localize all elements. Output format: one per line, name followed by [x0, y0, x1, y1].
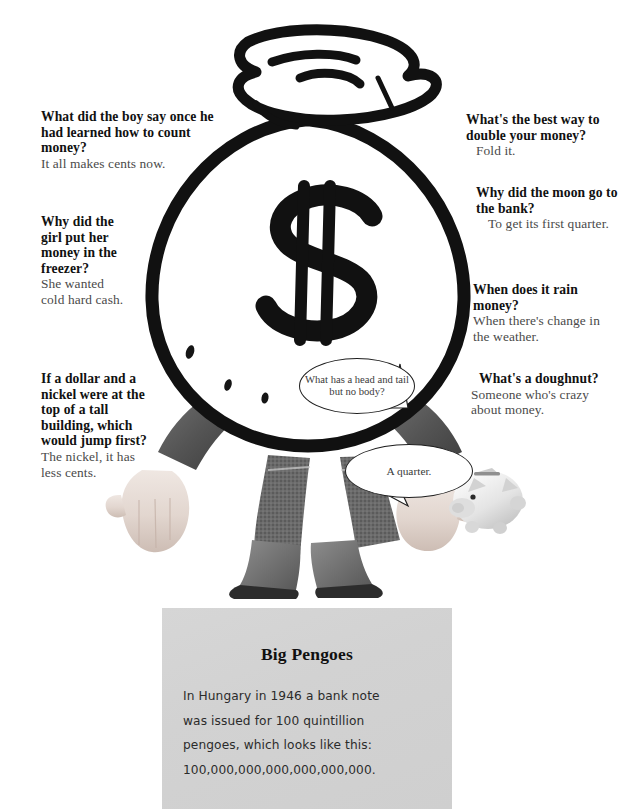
fact-box-line: In Hungary in 1946 a bank note — [183, 684, 438, 709]
fact-box-line: was issued for 100 quintillion — [183, 709, 438, 734]
joke-double-money: What's the best way to double your money… — [466, 112, 622, 159]
joke-answer: When there's change in the weather. — [473, 313, 605, 344]
left-hand — [106, 470, 190, 552]
joke-answer: Someone who's crazy about money. — [471, 387, 599, 418]
fact-box-line: pengoes, which looks like this: — [183, 733, 438, 758]
fact-box-body: In Hungary in 1946 a bank note was issue… — [183, 684, 438, 782]
joke-question: What's the best way to double your money… — [466, 112, 622, 143]
joke-freezer: Why did the girl put her money in the fr… — [41, 214, 129, 308]
joke-question: What did the boy say once he had learned… — [41, 109, 227, 156]
joke-doughnut: What's a doughnut? Someone who's crazy a… — [471, 371, 599, 418]
joke-question: What's a doughnut? — [471, 371, 599, 387]
joke-question: Why did the moon go to the bank? — [470, 185, 620, 216]
fact-box-line: 100,000,000,000,000,000,000. — [183, 758, 438, 783]
joke-question: If a dollar and a nickel were at the top… — [41, 371, 158, 449]
joke-moon-bank: Why did the moon go to the bank? To get … — [470, 185, 620, 232]
speech-bubble-reply-text: A quarter. — [387, 465, 432, 477]
joke-question: Why did the girl put her money in the fr… — [41, 214, 129, 276]
joke-answer: To get its first quarter. — [470, 216, 620, 232]
speech-bubble-riddle: What has a head and tail but no body? — [299, 358, 415, 414]
dollar-sign-glyph — [266, 186, 372, 340]
joke-answer: She wanted cold hard cash. — [41, 276, 129, 307]
joke-answer: It all makes cents now. — [41, 156, 227, 172]
fact-box-title: Big Pengoes — [162, 644, 452, 665]
joke-dollar-nickel: If a dollar and a nickel were at the top… — [41, 371, 158, 480]
joke-answer: Fold it. — [466, 143, 622, 159]
speech-bubble-reply: A quarter. — [345, 444, 473, 498]
joke-count-money: What did the boy say once he had learned… — [41, 109, 227, 171]
fact-box: Big Pengoes In Hungary in 1946 a bank no… — [162, 608, 452, 809]
joke-question: When does it rain money? — [473, 282, 605, 313]
speech-bubble-riddle-text: What has a head and tail but no body? — [300, 374, 414, 397]
joke-answer: The nickel, it has less cents. — [41, 449, 158, 480]
joke-rain-money: When does it rain money? When there's ch… — [473, 282, 605, 344]
